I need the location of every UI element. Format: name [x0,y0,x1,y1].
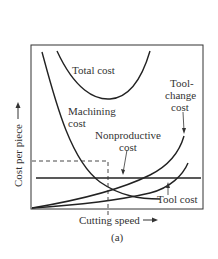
tool-change-label-line2: change [165,90,196,101]
x-axis-label: Cutting speed [79,215,140,226]
tool-change-label-line1: Tool- [170,78,194,89]
arrowhead-icon [121,169,125,175]
machining-label-line1: Machining [68,106,116,117]
tool-change-label-line3: cost [171,102,189,113]
total-cost-label: Total cost [72,65,115,76]
nonproductive-label-line1: Nonproductive [95,130,161,141]
arrowhead-icon [182,128,186,134]
plot-frame [31,45,203,209]
y-axis-label: Cost per piece [13,116,24,196]
arrowhead-icon [16,102,21,108]
tool-cost-label: Tool cost [157,194,197,205]
nonproductive-label-line2: cost [119,142,137,153]
nonproductive-pointer [123,150,127,173]
arrowhead-icon [152,218,158,223]
machining-label-line2: cost [68,118,86,129]
figure-caption: (a) [111,232,123,243]
